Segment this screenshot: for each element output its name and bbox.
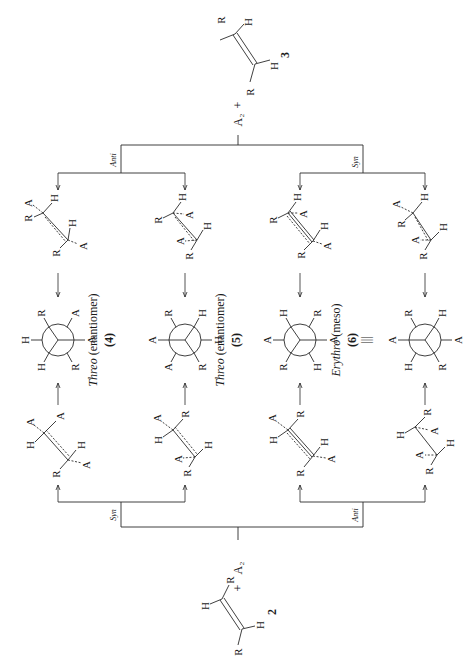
syn-label: Syn xyxy=(109,509,118,521)
atom-a: A xyxy=(172,455,184,463)
atom-r: R xyxy=(311,309,323,317)
atom-a: A xyxy=(413,451,425,459)
atom-a: A xyxy=(80,461,92,469)
atom-a: A xyxy=(151,414,163,422)
atom-h: H xyxy=(291,193,303,201)
syn-label: Syn xyxy=(351,156,360,168)
atom-a: A xyxy=(174,237,186,245)
atom-a: A xyxy=(325,455,337,463)
atom-h: H xyxy=(48,194,60,202)
atom-h: H xyxy=(444,439,456,447)
atom-a: A xyxy=(428,427,440,435)
atom-h: H xyxy=(202,441,214,449)
atom-h: H xyxy=(19,336,31,344)
atom-r: R xyxy=(196,363,208,371)
atom-h: H xyxy=(254,621,266,629)
atom-r: R xyxy=(224,576,236,584)
newman-6b: A R H A R H xyxy=(386,309,464,371)
atom-r: R xyxy=(423,467,435,475)
atom-h: H xyxy=(24,441,36,449)
atom-r: R xyxy=(22,214,34,222)
product-label-4: Threo (enantiomer) xyxy=(86,293,100,386)
plus-sign: + xyxy=(231,101,245,108)
atom-r: R xyxy=(277,363,289,371)
atom-r: R xyxy=(35,309,47,317)
atom-a: A xyxy=(409,236,421,244)
reactant-3: R H R H 3 + A₂ xyxy=(215,16,292,127)
atom-a: A xyxy=(452,336,464,344)
top-branch: Anti Syn xyxy=(58,135,425,190)
intermediate-bottom-row: A H A H R A R H A H R A xyxy=(24,408,456,478)
atom-a: A xyxy=(69,309,81,317)
atom-h: H xyxy=(437,223,449,231)
atom-r: R xyxy=(181,469,193,477)
bottom-branch: Syn Anti xyxy=(58,485,425,540)
atom-h: H xyxy=(242,18,254,26)
atom-r: R xyxy=(267,216,279,224)
anti-label: Anti xyxy=(109,153,118,167)
atom-h: H xyxy=(436,309,448,317)
atom-h: H xyxy=(394,431,406,439)
atom-h: H xyxy=(75,441,87,449)
atom-h: H xyxy=(318,222,330,230)
atom-a: A xyxy=(146,336,158,344)
atom-r: R xyxy=(436,363,448,371)
atom-r: R xyxy=(421,408,433,416)
atom-r: R xyxy=(244,88,256,96)
atom-a: A xyxy=(22,199,34,207)
atom-r: R xyxy=(162,309,174,317)
atom-h: H xyxy=(176,193,188,201)
product-number-4: (4) xyxy=(102,333,116,347)
compound-label-3: 3 xyxy=(278,52,292,58)
atom-r: R xyxy=(294,410,306,418)
plus-sign: + xyxy=(231,584,245,591)
atom-h: H xyxy=(201,222,213,230)
atom-a: A xyxy=(261,336,273,344)
arrows-to-newman-bottom xyxy=(58,383,425,405)
product-number-5: (5) xyxy=(229,333,243,347)
product-number-6: (6) xyxy=(345,333,359,347)
intermediate-top-row: H R A H R A H R A H R A xyxy=(22,193,449,260)
atom-a: A xyxy=(386,336,398,344)
atom-a: A xyxy=(297,210,309,218)
atom-r: R xyxy=(50,249,62,257)
atom-r: R xyxy=(395,220,407,228)
atom-r: R xyxy=(50,470,62,478)
atom-h: H xyxy=(402,363,414,371)
atom-h: H xyxy=(66,219,78,227)
atom-h: H xyxy=(418,193,430,201)
atom-a: A xyxy=(54,412,66,420)
compound-label-2: 2 xyxy=(265,609,279,615)
atom-a: A xyxy=(77,242,89,250)
atom-r: R xyxy=(152,216,164,224)
product-label-5: Threo (enantiomer) xyxy=(213,293,227,386)
atom-a: A xyxy=(24,418,36,426)
atom-r: R xyxy=(69,363,81,371)
atom-r: R xyxy=(179,410,191,418)
atom-h: H xyxy=(277,309,289,317)
atom-h: H xyxy=(152,436,164,444)
reaction-scheme: R H R H 3 + A₂ Anti Syn Syn Anti xyxy=(0,0,468,663)
atom-h: H xyxy=(311,363,323,371)
anti-label: Anti xyxy=(351,508,360,522)
atom-h: H xyxy=(35,363,47,371)
atom-h: H xyxy=(318,438,330,446)
newman-6: A H R A H R xyxy=(261,309,339,371)
reagent-a2: A₂ xyxy=(231,562,245,575)
atom-r: R xyxy=(402,309,414,317)
atom-r: R xyxy=(215,16,227,24)
atom-a: A xyxy=(162,363,174,371)
product-label-6: Erythro (meso) xyxy=(329,303,343,377)
equivalence-sign: ||| xyxy=(359,336,373,343)
reagent-a2: A₂ xyxy=(231,114,245,127)
atom-h: H xyxy=(267,436,279,444)
atom-a: A xyxy=(321,242,333,250)
newman-projections: H R A A R H Threo (enantiomer) (4) A R xyxy=(19,293,464,386)
atom-r: R xyxy=(294,469,306,477)
arrows-to-newman-top xyxy=(58,273,425,297)
atom-h: H xyxy=(196,309,208,317)
atom-h: H xyxy=(268,62,280,70)
atom-a: A xyxy=(183,211,195,219)
atom-h: H xyxy=(199,602,211,610)
atom-a: A xyxy=(390,200,402,208)
